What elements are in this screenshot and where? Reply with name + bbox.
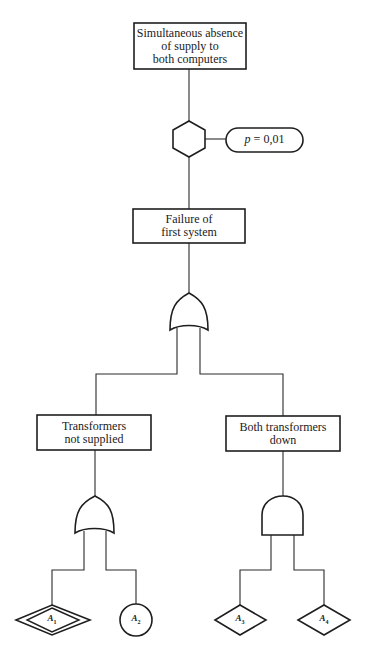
basic-event-a1-label: A1 xyxy=(40,613,64,625)
intermediate-event-line-2: first system xyxy=(161,226,217,239)
condition-variable: p xyxy=(245,132,251,146)
symbol-index: 1 xyxy=(54,619,57,625)
left-event-label: Transformers not supplied xyxy=(37,415,151,450)
and-gate-icon xyxy=(262,496,303,535)
basic-event-a3-label: A3 xyxy=(228,613,252,625)
symbol-index: 2 xyxy=(138,619,141,625)
top-event-label: Simultaneous absence of supply to both c… xyxy=(134,23,246,69)
right-event-label: Both transformers down xyxy=(226,416,340,451)
or-gate-icon xyxy=(170,293,208,330)
top-event-line-1: Simultaneous absence xyxy=(137,27,243,40)
top-event-line-2: of supply to xyxy=(161,40,218,53)
fault-tree-diagram xyxy=(0,0,368,663)
left-event-line-2: not supplied xyxy=(65,433,124,446)
symbol-index: 4 xyxy=(326,619,329,625)
basic-event-a4-label: A4 xyxy=(312,613,336,625)
basic-event-a2-label: A2 xyxy=(124,613,148,625)
or-gate-icon xyxy=(75,496,114,533)
symbol-index: 3 xyxy=(242,619,245,625)
condition-label: p = 0,01 xyxy=(226,132,303,147)
right-event-line-2: down xyxy=(270,434,297,447)
top-event-line-3: both computers xyxy=(153,53,227,66)
right-event-line-1: Both transformers xyxy=(240,421,327,434)
intermediate-event-label: Failure of first system xyxy=(133,209,245,243)
left-event-line-1: Transformers xyxy=(62,420,126,433)
inhibit-gate-hexagon-icon xyxy=(173,121,205,157)
condition-value: = 0,01 xyxy=(254,132,285,146)
